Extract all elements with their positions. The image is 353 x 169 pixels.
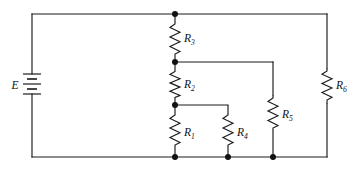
node-r5-bottom [270, 154, 276, 160]
resistor-R6-label: R6 [335, 79, 347, 94]
resistor-R4-zigzag [223, 112, 233, 150]
node-r2-r1 [172, 102, 178, 108]
resistor-R4: R4 [223, 112, 248, 150]
node-r4-bottom [225, 154, 231, 160]
node-r1-bottom [172, 154, 178, 160]
resistor-R5-zigzag [268, 95, 278, 133]
resistor-R3-letter: R [183, 32, 191, 44]
source-label-E: E [10, 79, 18, 91]
resistor-R2: R2 [170, 69, 195, 99]
resistor-R3-zigzag [170, 21, 180, 55]
resistor-R5-label: R5 [281, 108, 293, 123]
resistor-R1-label: R1 [183, 126, 195, 141]
wires-group [32, 14, 327, 157]
node-top-center [172, 11, 178, 17]
voltage-source-E: E [10, 74, 41, 94]
resistor-R5: R5 [268, 95, 293, 133]
resistor-R5-subscript: 5 [289, 114, 293, 123]
resistor-R1-letter: R [183, 126, 191, 138]
resistor-R6-zigzag [322, 68, 332, 104]
resistor-R2-zigzag [170, 69, 180, 99]
resistor-R3-label: R3 [183, 32, 195, 47]
resistor-R3-subscript: 3 [190, 38, 195, 47]
resistor-R6-letter: R [335, 79, 343, 91]
resistor-R4-subscript: 4 [244, 132, 248, 141]
resistor-R1-subscript: 1 [191, 132, 195, 141]
resistor-R2-subscript: 2 [191, 84, 195, 93]
resistor-R1-zigzag [170, 112, 180, 150]
resistor-R1: R1 [170, 112, 195, 150]
resistor-R6: R6 [322, 68, 347, 104]
resistor-R4-label: R4 [236, 126, 248, 141]
resistor-R5-letter: R [281, 108, 289, 120]
resistor-R3: R3 [170, 21, 195, 55]
resistor-R6-subscript: 6 [343, 85, 347, 94]
circuit-diagram: E R3 R2 R1 R4 [0, 0, 353, 169]
circuit-schematic-canvas: E R3 R2 R1 R4 [0, 0, 353, 169]
resistor-R2-letter: R [183, 78, 191, 90]
node-r3-r2 [172, 59, 178, 65]
resistor-R4-letter: R [236, 126, 244, 138]
resistor-R2-label: R2 [183, 78, 195, 93]
